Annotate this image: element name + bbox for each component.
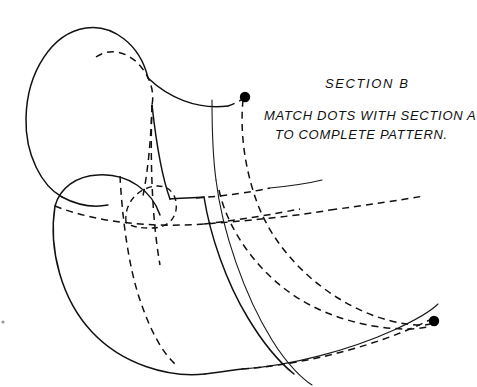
equator-hidden-line-extension	[330, 196, 424, 210]
page-speck	[1, 320, 4, 323]
instruction-line-2: TO COMPLETE PATTERN.	[275, 127, 448, 142]
crest-to-dot-connector	[228, 99, 243, 106]
upper-cross-band-hidden	[196, 188, 270, 198]
lower-connection-dot[interactable]	[429, 316, 439, 326]
lower-inner-hidden-seam	[120, 176, 175, 364]
front-fold-edge	[152, 105, 170, 199]
upper-lobe-outline	[26, 27, 148, 197]
inner-hidden-band-sweep	[219, 190, 428, 329]
upper-band-hidden-edge	[143, 105, 152, 196]
spine-upper-segment	[212, 100, 216, 180]
drawing-canvas: SECTION B MATCH DOTS WITH SECTION A TO C…	[0, 0, 477, 387]
lower-lobe-left-outline	[53, 206, 205, 375]
technical-line-drawing	[0, 0, 477, 387]
right-edge-arc	[270, 180, 322, 188]
lower-lobe-top-outline	[55, 175, 160, 215]
equator-hidden-line	[55, 206, 330, 225]
lower-front-fold-edge	[204, 197, 294, 374]
upper-ridge-edge	[148, 78, 228, 107]
upper-lobe-lower-left-edge	[62, 197, 108, 206]
lower-lobe-bottom-edge	[205, 369, 242, 374]
lower-outer-solid-edge	[242, 304, 438, 369]
upper-connection-dot[interactable]	[240, 92, 250, 102]
section-title: SECTION B	[325, 76, 409, 91]
instruction-line-1: MATCH DOTS WITH SECTION A	[264, 108, 477, 123]
inner-oval-hidden-detail	[126, 186, 176, 228]
upper-lobe-inner-hidden-curve	[96, 52, 153, 105]
